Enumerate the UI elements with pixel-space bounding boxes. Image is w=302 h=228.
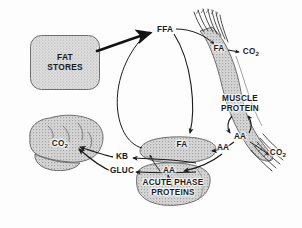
co2-muscle-lower-subscript: 2 — [283, 151, 287, 158]
plasma-aa-label: AA — [215, 143, 231, 152]
acute-phase-line1: ACUTE PHASE — [143, 178, 204, 187]
co2-brain-label: CO2 — [48, 139, 72, 148]
fat-stores-label-line1: FAT — [57, 52, 73, 62]
metabolic-flow-diagram: FAT STORES FFA FA CO2 MUSCLE PROTEIN AA … — [0, 0, 302, 228]
muscle-protein-line1: MUSCLE — [222, 94, 258, 103]
fa-liver-label: FA — [175, 140, 189, 149]
aa-muscle-label: AA — [232, 132, 248, 141]
arrow-fa-to-co2-muscle — [228, 50, 239, 52]
co2-brain-text: CO — [52, 139, 65, 148]
liver-aa-label: AA — [161, 166, 177, 175]
arrow-ffa-to-liver-fa — [174, 34, 193, 133]
muscle-protein-label: MUSCLE PROTEIN — [214, 94, 266, 114]
co2-muscle-subscript: 2 — [256, 50, 260, 57]
arrow-liver-to-ffa — [117, 32, 148, 148]
arrow-fat-to-ffa — [97, 33, 150, 51]
arrow-muscle-protein-to-aa — [228, 116, 232, 133]
ffa-label: FFA — [153, 25, 177, 34]
co2-brain-subscript: 2 — [65, 142, 69, 149]
acute-phase-proteins-label: ACUTE PHASE PROTEINS — [136, 178, 210, 198]
gluc-label: GLUC — [108, 166, 136, 175]
co2-muscle-lower-label: CO2 — [267, 148, 289, 157]
muscle-protein-line2: PROTEIN — [221, 104, 259, 113]
acute-phase-line2: PROTEINS — [151, 188, 194, 197]
co2-muscle-text: CO — [243, 47, 256, 56]
fat-stores-label: FAT STORES — [30, 52, 100, 73]
co2-muscle-label: CO2 — [240, 47, 262, 56]
co2-muscle-lower-text: CO — [270, 148, 283, 157]
fa-muscle-label: FA — [212, 44, 226, 53]
fat-stores-label-line2: STORES — [47, 62, 83, 72]
kb-label: KB — [114, 152, 130, 161]
